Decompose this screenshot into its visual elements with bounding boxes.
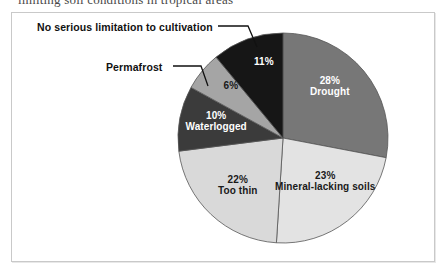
pie-slice-group [178, 33, 388, 243]
pie-chart-svg [0, 0, 447, 277]
slice-percent-too-thin: 22% [218, 174, 258, 186]
slice-name-waterlogged: Waterlogged [186, 121, 247, 133]
slice-name-too-thin: Too thin [218, 185, 258, 197]
slice-percent-no-serious-limitation-to-cultivation: 11% [254, 56, 274, 68]
slice-label-too-thin: 22%Too thin [218, 174, 258, 197]
slice-label-mineral-lacking-soils: 23%Mineral-lacking soils [275, 170, 375, 193]
slice-label-drought: 28%Drought [310, 75, 350, 98]
slice-name-drought: Drought [310, 86, 350, 98]
slice-percent-drought: 28% [310, 75, 350, 87]
slice-percent-mineral-lacking-soils: 23% [275, 170, 375, 182]
callout-label-no-serious-limitation: No serious limitation to cultivation [37, 21, 213, 33]
slice-percent-waterlogged: 10% [186, 110, 247, 122]
slice-label-waterlogged: 10%Waterlogged [186, 110, 247, 133]
slice-label-no-serious-limitation-to-cultivation: 11% [254, 56, 274, 68]
slice-name-mineral-lacking-soils: Mineral-lacking soils [275, 181, 375, 193]
slice-percent-permafrost: 6% [224, 80, 239, 92]
callout-label-permafrost: Permafrost [106, 61, 162, 73]
slice-label-permafrost: 6% [224, 80, 239, 92]
pie-chart-figure: limiting soil conditions in tropical are… [0, 0, 447, 277]
